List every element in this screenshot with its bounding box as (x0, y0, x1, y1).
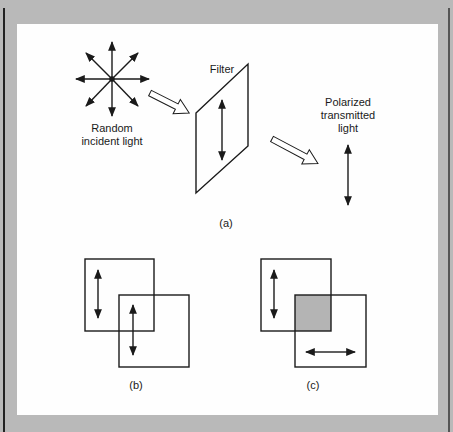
source-label-line2: incident light (81, 135, 142, 147)
caption-c: (c) (307, 379, 320, 391)
source-label-line1: Random (91, 122, 133, 134)
overlap-shaded-region (295, 295, 331, 331)
parallel-filters (85, 259, 189, 367)
random-light-star-icon (76, 42, 149, 116)
polarization-diagram: Random incident light Filter Polarized t… (0, 0, 453, 432)
output-label-line1: Polarized (325, 96, 371, 108)
caption-a: (a) (219, 217, 232, 229)
vertical-axis-arrow-icon (98, 270, 133, 355)
hollow-arrow-icon (268, 132, 321, 171)
output-label-line3: light (338, 122, 358, 134)
caption-b: (b) (129, 379, 142, 391)
hollow-arrow-icon (146, 86, 192, 120)
output-label-line2: transmitted (321, 109, 375, 121)
filter-label: Filter (210, 63, 235, 75)
figure-frame: Random incident light Filter Polarized t… (0, 0, 453, 432)
